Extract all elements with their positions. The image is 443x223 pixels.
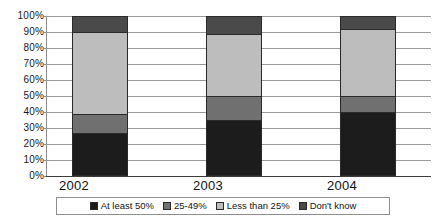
y-tick-label: 40%	[0, 107, 44, 117]
y-tick-label: 10%	[0, 155, 44, 165]
legend-item-less-than-25[interactable]: Less than 25%	[216, 201, 290, 211]
y-tick-label: 70%	[0, 59, 44, 69]
plot-area	[46, 16, 431, 176]
y-tick-label: 30%	[0, 123, 44, 133]
legend-label: Don't know	[310, 201, 357, 211]
legend-label: Less than 25%	[227, 201, 290, 211]
bar-segment-dont-know	[72, 16, 128, 32]
legend-swatch-icon	[216, 202, 224, 210]
stacked-bar-chart: 100% 90% 80% 70% 60% 50% 40% 30% 20% 10%…	[0, 0, 443, 223]
bar-segment-dont-know	[206, 16, 262, 34]
bar-segment-less-than-25	[206, 34, 262, 96]
bar-segment-25-49	[72, 114, 128, 133]
legend-item-25-49[interactable]: 25-49%	[163, 201, 207, 211]
x-axis-line	[46, 176, 431, 177]
legend-label: 25-49%	[174, 201, 207, 211]
y-tick-label: 20%	[0, 139, 44, 149]
bar-segment-less-than-25	[72, 32, 128, 114]
bar-2003[interactable]	[206, 16, 262, 176]
y-tick-label: 50%	[0, 91, 44, 101]
bar-segment-25-49	[340, 96, 396, 112]
legend-item-dont-know[interactable]: Don't know	[299, 201, 357, 211]
legend-label: At least 50%	[101, 201, 154, 211]
legend-swatch-icon	[299, 202, 307, 210]
bar-segment-at-least-50	[72, 133, 128, 176]
y-tick-label: 80%	[0, 43, 44, 53]
bar-2004[interactable]	[340, 16, 396, 176]
legend-swatch-icon	[90, 202, 98, 210]
legend-item-at-least-50[interactable]: At least 50%	[90, 201, 154, 211]
bar-segment-at-least-50	[206, 120, 262, 176]
y-tick-label: 90%	[0, 27, 44, 37]
bar-segment-dont-know	[340, 16, 396, 29]
bar-2002[interactable]	[72, 16, 128, 176]
chart-legend: At least 50% 25-49% Less than 25% Don't …	[56, 197, 390, 215]
x-tick-label-2004: 2004	[297, 178, 387, 193]
bar-segment-25-49	[206, 96, 262, 120]
bar-segment-less-than-25	[340, 29, 396, 96]
legend-swatch-icon	[163, 202, 171, 210]
bar-segment-at-least-50	[340, 112, 396, 176]
x-tick-label-2003: 2003	[163, 178, 253, 193]
y-tick-label: 60%	[0, 75, 44, 85]
x-tick-label-2002: 2002	[29, 178, 119, 193]
y-tick-label: 100%	[0, 11, 44, 21]
